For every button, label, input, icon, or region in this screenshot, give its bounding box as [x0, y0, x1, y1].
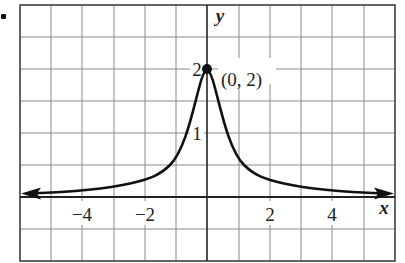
x-axis-label: x	[378, 197, 389, 218]
function-graph: −4 −2 2 4 1 2 x y (0, 2)	[0, 0, 405, 263]
point-label: (0, 2)	[221, 69, 262, 91]
x-tick-label: −4	[72, 204, 93, 225]
x-tick-label: 4	[327, 204, 337, 225]
x-tick-label: −2	[135, 204, 155, 225]
maximum-point-marker	[202, 64, 212, 74]
x-tick-label: 2	[265, 204, 275, 225]
y-axis-label: y	[214, 5, 225, 26]
y-tick-label: 1	[192, 123, 202, 144]
y-tick-label: 2	[192, 59, 202, 80]
